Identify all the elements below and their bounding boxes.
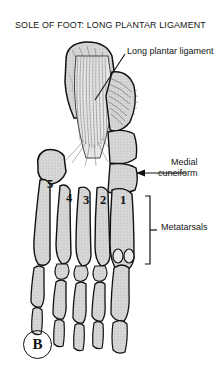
label-metatarsal-5: 5 [47,178,53,191]
anatomical-figure-sole-of-foot: SOLE OF FOOT: LONG PLANTAR LIGAMENT [0,0,221,381]
label-medial-cuneiform: Medial cuneiform [158,157,198,179]
label-metatarsal-3: 3 [83,194,89,207]
label-metatarsal-4: 4 [66,192,72,205]
label-metatarsal-1: 1 [120,194,126,207]
label-medial-cuneiform-line2: cuneiform [158,168,198,179]
label-medial-cuneiform-line1: Medial [158,157,198,168]
cuboid-bone [106,72,135,131]
foot-anatomy-illustration [0,0,221,381]
bracket-metatarsals [145,196,157,264]
label-metatarsal-2: 2 [100,194,106,207]
panel-label-b: B [23,330,52,359]
metatarsal-heads [55,264,107,281]
medial-cuneiform-bone [108,130,137,163]
label-metatarsals: Metatarsals [161,222,208,233]
label-long-plantar-ligament: Long plantar ligament [127,46,214,57]
